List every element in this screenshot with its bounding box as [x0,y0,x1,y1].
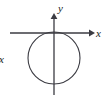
x-label-clipped-left: x [0,53,4,65]
diagram-svg: y x x [0,0,105,100]
figure-canvas: y x x [0,0,105,100]
x-axis-arrow-icon [89,29,95,36]
y-axis-arrow-icon [51,13,58,19]
y-axis-label: y [57,2,63,14]
x-axis-label: x [95,27,101,39]
